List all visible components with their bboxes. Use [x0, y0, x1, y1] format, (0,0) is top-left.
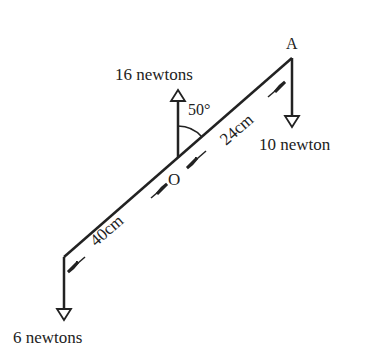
arrowhead-down-icon — [285, 116, 299, 127]
arrowhead-down-icon — [57, 309, 71, 320]
arrowhead-icon — [275, 82, 285, 92]
label-force-16n: 16 newtons — [115, 65, 193, 84]
label-dist-40cm: 40cm — [86, 211, 127, 250]
label-force-6n: 6 newtons — [13, 328, 82, 347]
label-angle: 50° — [188, 101, 210, 118]
label-point-a: A — [286, 35, 298, 52]
label-force-10n: 10 newton — [259, 135, 331, 154]
label-point-o: O — [168, 170, 180, 189]
arrowhead-icon — [187, 158, 197, 168]
arrowhead-icon — [157, 184, 167, 194]
arrowhead-icon — [68, 262, 78, 272]
lever-diagram: A O 50° 16 newtons 10 newton 6 newtons 2… — [0, 0, 376, 358]
angle-arc — [178, 126, 202, 137]
arrowhead-up-icon — [171, 90, 185, 101]
label-dist-24cm: 24cm — [216, 110, 257, 149]
